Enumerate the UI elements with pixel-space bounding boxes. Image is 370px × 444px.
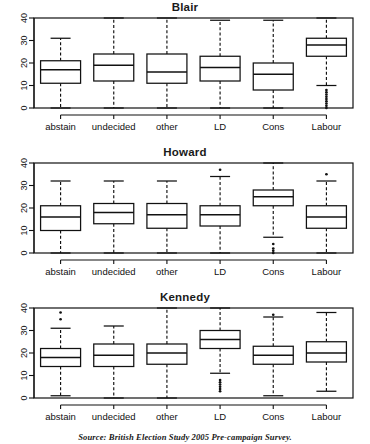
outlier-point	[272, 243, 275, 246]
x-tick-label-cons: Cons	[262, 121, 284, 131]
box-iqr	[41, 206, 81, 231]
source-caption: Source: British Election Study 2005 Pre-…	[0, 432, 370, 442]
panel-title-howard: Howard	[0, 146, 370, 158]
plot-frame	[34, 163, 353, 253]
box-iqr	[253, 190, 293, 206]
box-ld	[200, 20, 240, 108]
x-tick-label-labour: Labour	[312, 121, 342, 131]
x-tick-label-other: other	[156, 121, 178, 131]
x-tick-label-abstain: abstain	[45, 266, 76, 276]
box-iqr	[147, 344, 187, 364]
boxplot-svg-kennedy: 010203040abstainundecidedotherLDConsLabo…	[0, 290, 370, 421]
y-tick-label: 10	[19, 225, 29, 235]
outlier-point	[219, 168, 222, 171]
box-iqr	[200, 206, 240, 226]
box-cons	[253, 313, 293, 395]
x-tick-label-labour: Labour	[312, 411, 342, 421]
panel-title-kennedy: Kennedy	[0, 291, 370, 303]
outlier-point	[59, 318, 62, 321]
x-tick-label-other: other	[156, 266, 178, 276]
outlier-point	[325, 173, 328, 176]
boxplot-figure: Blair 010203040abstainundecidedotherLDCo…	[0, 0, 370, 444]
box-undecided	[94, 18, 134, 108]
y-tick-label: 30	[19, 180, 29, 190]
panel-plot-kennedy: 010203040abstainundecidedotherLDConsLabo…	[0, 290, 370, 421]
y-tick-label: 40	[19, 303, 29, 313]
x-tick-label-cons: Cons	[262, 266, 284, 276]
panel-plot-howard: 010203040abstainundecidedotherLDConsLabo…	[0, 145, 370, 276]
x-tick-label-ld: LD	[214, 266, 226, 276]
box-ld	[200, 168, 240, 253]
panel-plot-blair: 010203040abstainundecidedotherLDConsLabo…	[0, 0, 370, 131]
y-tick-label: 30	[19, 325, 29, 335]
box-other	[147, 18, 187, 108]
x-tick-label-ld: LD	[214, 411, 226, 421]
box-cons	[253, 163, 293, 254]
box-iqr	[200, 56, 240, 81]
box-iqr	[253, 63, 293, 90]
box-iqr	[41, 61, 81, 84]
y-tick-label: 20	[19, 58, 29, 68]
box-iqr	[306, 38, 346, 56]
x-tick-label-cons: Cons	[262, 411, 284, 421]
y-tick-label: 10	[19, 80, 29, 90]
y-tick-label: 20	[19, 348, 29, 358]
box-iqr	[147, 54, 187, 83]
y-tick-label: 0	[19, 250, 29, 255]
panel-howard: Howard 010203040abstainundecidedotherLDC…	[0, 145, 370, 290]
box-iqr	[306, 342, 346, 362]
x-tick-label-abstain: abstain	[45, 411, 76, 421]
y-tick-label: 20	[19, 203, 29, 213]
x-tick-label-other: other	[156, 411, 178, 421]
panel-kennedy: Kennedy 010203040abstainundecidedotherLD…	[0, 290, 370, 435]
box-ld	[200, 308, 240, 393]
box-iqr	[94, 54, 134, 81]
outlier-point	[272, 313, 275, 316]
y-tick-label: 0	[19, 395, 29, 400]
outlier-point	[272, 252, 275, 255]
y-tick-label: 0	[19, 105, 29, 110]
box-abstain	[41, 311, 81, 396]
box-labour	[306, 173, 346, 253]
x-tick-label-undecided: undecided	[92, 411, 136, 421]
panel-blair: Blair 010203040abstainundecidedotherLDCo…	[0, 0, 370, 145]
box-other	[147, 181, 187, 253]
box-undecided	[94, 181, 134, 253]
panel-title-blair: Blair	[0, 1, 370, 13]
box-iqr	[147, 204, 187, 229]
x-tick-label-undecided: undecided	[92, 266, 136, 276]
box-labour	[306, 18, 346, 109]
boxplot-svg-blair: 010203040abstainundecidedotherLDConsLabo…	[0, 0, 370, 131]
box-iqr	[94, 204, 134, 224]
outlier-point	[325, 107, 328, 110]
x-tick-label-labour: Labour	[312, 266, 342, 276]
y-tick-label: 40	[19, 158, 29, 168]
plot-frame	[34, 18, 353, 108]
y-tick-label: 40	[19, 13, 29, 23]
x-tick-label-undecided: undecided	[92, 121, 136, 131]
plot-frame	[34, 308, 353, 398]
box-other	[147, 308, 187, 398]
box-abstain	[41, 181, 81, 253]
outlier-point	[59, 311, 62, 314]
box-abstain	[41, 38, 81, 108]
y-tick-label: 30	[19, 35, 29, 45]
box-cons	[253, 20, 293, 108]
x-tick-label-ld: LD	[214, 121, 226, 131]
boxplot-svg-howard: 010203040abstainundecidedotherLDConsLabo…	[0, 145, 370, 276]
x-tick-label-abstain: abstain	[45, 121, 76, 131]
outlier-point	[219, 390, 222, 393]
y-tick-label: 10	[19, 370, 29, 380]
box-undecided	[94, 326, 134, 398]
box-labour	[306, 313, 346, 392]
